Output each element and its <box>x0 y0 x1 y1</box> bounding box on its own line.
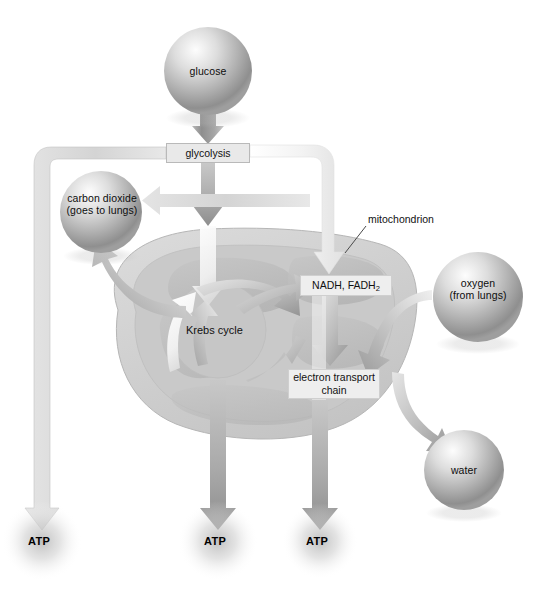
atp-label-2: ATP <box>204 535 226 547</box>
mitochondrion-shape <box>114 228 417 439</box>
nadh-fadh2-subscript: 2 <box>376 283 380 292</box>
diagram-canvas: glucose carbon dioxide (goes to lungs) o… <box>0 0 543 595</box>
krebs-cycle-label: Krebs cycle <box>186 324 243 336</box>
atp-label-1: ATP <box>28 535 50 547</box>
nadh-fadh2-text: NADH, FADH <box>312 279 376 291</box>
glycolysis-label: glycolysis <box>186 147 231 160</box>
cellular-respiration-svg <box>0 0 543 595</box>
etc-line1: electron transport <box>293 371 375 383</box>
etc-label: electron transport chain <box>293 371 375 396</box>
sphere-water <box>424 430 504 522</box>
sphere-carbon-dioxide <box>60 171 142 265</box>
sphere-oxygen <box>433 252 523 354</box>
electron-transport-chain-box[interactable]: electron transport chain <box>288 369 380 399</box>
atp-label-3: ATP <box>306 535 328 547</box>
etc-line2: chain <box>321 384 346 396</box>
sphere-glucose <box>164 27 252 128</box>
mitochondrion-label: mitochondrion <box>368 213 434 225</box>
arrow-glycolysis-to-carbon-dioxide <box>142 186 310 215</box>
glycolysis-box[interactable]: glycolysis <box>166 143 250 163</box>
nadh-fadh2-box[interactable]: NADH, FADH2 <box>300 275 392 296</box>
nadh-fadh2-label: NADH, FADH2 <box>312 279 380 293</box>
